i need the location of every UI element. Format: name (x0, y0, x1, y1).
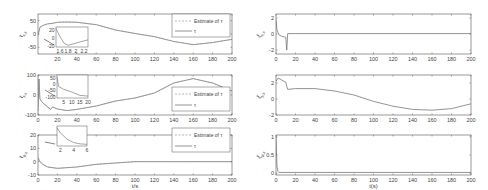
y-axis-label: ξψ,s (256, 149, 267, 160)
x-tick-label: 120 (388, 56, 397, 62)
series-line (276, 20, 471, 50)
x-tick-label: 80 (351, 56, 357, 62)
x-tick-label: 180 (208, 177, 217, 183)
x-tick-label: 0 (274, 177, 277, 183)
x-tick-label: 160 (427, 56, 436, 62)
x-tick-label: 20 (292, 117, 298, 123)
x-tick-label: 60 (93, 177, 99, 183)
inset-x-tick: 2.2 (81, 48, 88, 54)
y-tick-label: 0 (33, 31, 36, 37)
inset-x-tick: 15 (77, 99, 83, 105)
y-tick-label: -100 (25, 112, 36, 118)
x-tick-label: 180 (447, 56, 456, 62)
x-tick-label: 100 (369, 177, 378, 183)
x-tick-label: 100 (369, 117, 378, 123)
y-tick-label: 2 (271, 80, 274, 86)
x-tick-label: 200 (466, 117, 475, 123)
inset-x-tick: 1.8 (65, 48, 72, 54)
series-line (38, 158, 232, 169)
x-tick-label: 0 (274, 117, 277, 123)
inset-y-tick: 20 (49, 27, 55, 33)
x-tick-label: 120 (388, 117, 397, 123)
inset-x-tick: 6 (86, 147, 89, 153)
x-tick-label: 20 (54, 117, 60, 123)
x-tick-label: 160 (427, 177, 436, 183)
inset-frame (57, 126, 87, 146)
x-tick-label: 120 (150, 56, 159, 62)
y-tick-label: 0 (33, 159, 36, 165)
y-tick-label: 0.5 (266, 152, 274, 158)
x-tick-label: 160 (427, 117, 436, 123)
inset-y-tick: -100 (45, 94, 55, 100)
legend-entry-actual: τ (194, 143, 196, 149)
x-tick-label: 180 (208, 56, 217, 62)
x-tick-label: 100 (130, 117, 139, 123)
x-tick-label: 0 (36, 177, 39, 183)
y-axis-label: τψ,s (18, 149, 29, 160)
x-tick-label: 20 (54, 177, 60, 183)
x-tick-label: 100 (369, 56, 378, 62)
inset-x-tick: 2 (75, 48, 78, 54)
x-tick-label: 40 (312, 56, 318, 62)
x-tick-label: 200 (466, 56, 475, 62)
inset-x-tick: 2 (59, 147, 62, 153)
x-tick-label: 140 (169, 177, 178, 183)
y-tick-label: -10 (28, 172, 36, 178)
x-tick-label: 140 (169, 56, 178, 62)
x-tick-label: 60 (93, 117, 99, 123)
series-line (276, 78, 471, 110)
inset-y-tick: -50 (48, 87, 55, 93)
x-tick-label: 20 (292, 177, 298, 183)
y-tick-label: 100 (27, 72, 36, 78)
x-tick-label: 120 (150, 177, 159, 183)
estimate-line (38, 158, 232, 169)
x-tick-label: 180 (447, 177, 456, 183)
y-tick-label: -2 (269, 47, 274, 53)
x-tick-label: 200 (227, 56, 236, 62)
inset-y-tick: 0 (53, 81, 56, 87)
y-tick-label: 10 (30, 145, 36, 151)
x-tick-label: 160 (189, 56, 198, 62)
x-tick-label: 20 (54, 56, 60, 62)
x-tick-label: 200 (227, 117, 236, 123)
inset-x-tick: 4 (72, 147, 75, 153)
y-axis-label: τy,s (18, 90, 28, 100)
x-tick-label: 40 (312, 117, 318, 123)
x-tick-label: 160 (189, 177, 198, 183)
axes-frame (276, 75, 471, 115)
x-tick-label: 140 (169, 117, 178, 123)
x-tick-label: 200 (227, 177, 236, 183)
x-tick-label: 40 (74, 177, 80, 183)
y-tick-label: 20 (30, 132, 36, 138)
y-tick-label: 0 (271, 31, 274, 37)
x-tick-label: 180 (447, 117, 456, 123)
x-tick-label: 140 (408, 177, 417, 183)
y-axis-label: ξy,s (256, 90, 266, 100)
inset-y-tick: 50 (50, 75, 56, 81)
x-tick-label: 160 (189, 117, 198, 123)
panel-left-1: 20406080100120140160180200500-50τx,s1.61… (18, 14, 237, 62)
inset-frame (57, 75, 88, 98)
legend-entry-estimate: Estimate of τ (194, 132, 222, 138)
x-tick-label: 60 (331, 117, 337, 123)
x-tick-label: 200 (466, 177, 475, 183)
y-tick-label: 1 (271, 134, 274, 140)
y-tick-label: 0 (271, 96, 274, 102)
x-tick-label: 60 (331, 177, 337, 183)
panel-right-2: 02040608010012014016018020020-2ξy,s (256, 75, 476, 123)
x-tick-label: 140 (408, 117, 417, 123)
x-tick-label: 180 (208, 117, 217, 123)
inset-y-tick: 0 (52, 35, 55, 41)
legend-entry-estimate: Estimate of τ (194, 91, 222, 97)
x-axis-label: t/s (132, 183, 138, 189)
x-tick-label: 140 (408, 56, 417, 62)
x-tick-label: 40 (74, 56, 80, 62)
x-tick-label: 60 (331, 56, 337, 62)
axes-frame (276, 14, 471, 54)
inset-x-tick: 5 (62, 99, 65, 105)
inset-x-tick: 20 (85, 99, 91, 105)
axes-frame (276, 135, 471, 175)
y-tick-label: -50 (28, 44, 36, 50)
x-axis-label: t(s) (369, 183, 378, 189)
y-tick-label: 2 (271, 15, 274, 21)
